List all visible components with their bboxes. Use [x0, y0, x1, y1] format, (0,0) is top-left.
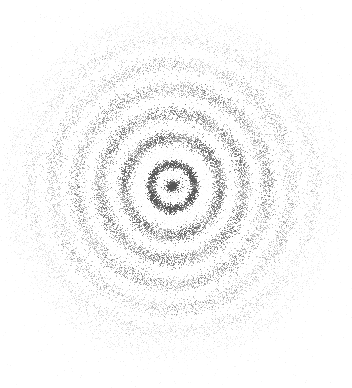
plot-root: [0, 0, 352, 388]
scatter-plot-canvas: [0, 0, 352, 388]
